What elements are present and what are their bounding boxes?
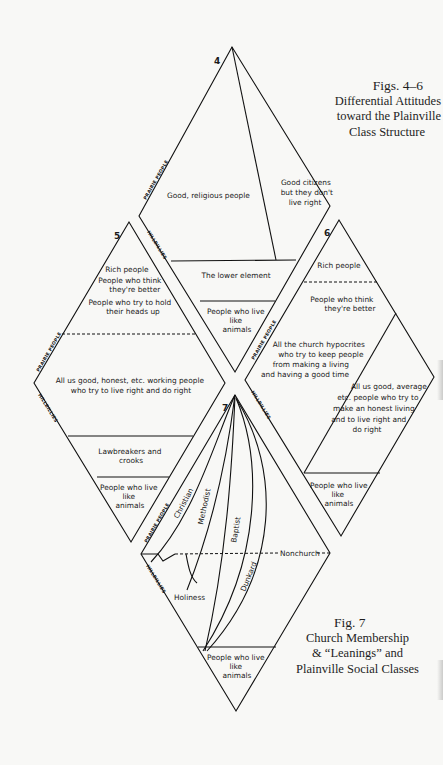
- diagram-7-prairie-label: PRAIRIE PEOPLE: [144, 502, 171, 543]
- diagram-4-line-lower-top: [171, 260, 296, 261]
- diagram-6: 6 PRAIRIE PEOPLE HILLBILLIES Rich people…: [245, 220, 434, 536]
- diagram-4-good-religious: Good, religious people: [167, 191, 250, 200]
- diagram-4-number: 4: [214, 56, 220, 66]
- diagram-5: 5 PRAIRIE PEOPLE HILLBILLIES Rich people…: [34, 222, 225, 542]
- book-page: 4 PRAIRIE PEOPLE HILLBILLIES Good, relig…: [0, 0, 443, 765]
- diagram-5-prairie-label: PRAIRIE PEOPLE: [36, 331, 63, 372]
- caption-fig-7-line-3: Plainville Social Classes: [296, 662, 443, 678]
- diagram-5-number: 5: [114, 231, 120, 241]
- caption-fig-7-line-2: & “Leanings” and: [296, 646, 443, 662]
- diagram-7-holiness: Holiness: [174, 593, 205, 602]
- diagram-7-holiness-notch: [141, 554, 175, 561]
- diagram-6-number: 6: [324, 228, 330, 238]
- diagram-6-church-hypocrites: All the church hypocrites who try to kee…: [261, 340, 367, 379]
- page-edge-shadow: [437, 660, 443, 700]
- diagram-7-animals: People who live like animals: [207, 653, 267, 680]
- caption-figs-4-6-line-3: Class Structure: [315, 125, 443, 141]
- diagram-4-prairie-label: PRAIRIE PEOPLE: [143, 159, 170, 200]
- caption-fig-7-number: Fig. 7: [296, 615, 443, 631]
- diagram-7-nonchurch-line: [175, 553, 278, 554]
- diagram-4-good-citizens: Good citizens but they don't live right: [281, 178, 336, 207]
- diagram-7-nonchurch: Nonchurch: [280, 549, 320, 558]
- diagram-7-hillbillies-label: HILLBILLIES: [145, 564, 167, 595]
- caption-figs-4-6: Figs. 4–6 Differential Attitudes toward …: [315, 78, 443, 140]
- diagram-7-curve-christian: [151, 395, 235, 562]
- caption-fig-7-line-1: Church Membership: [296, 631, 443, 647]
- caption-figs-4-6-line-2: toward the Plainville: [315, 109, 443, 125]
- diagram-5-working-people: All us good, honest, etc. working people…: [56, 376, 207, 395]
- diagram-4-animals: People who live like animals: [207, 307, 267, 334]
- caption-figs-4-6-line-1: Differential Attitudes: [315, 94, 443, 110]
- diagram-7-number: 7: [222, 403, 228, 413]
- diagram-5-top-classes: Rich people People who think they're bet…: [88, 265, 173, 316]
- diagram-4: 4 PRAIRIE PEOPLE HILLBILLIES Good, relig…: [139, 47, 335, 372]
- diagram-6-good-average: All us good, average etc. people who try…: [331, 382, 429, 434]
- caption-figs-4-6-number: Figs. 4–6: [315, 78, 443, 94]
- diagram-6-hillbillies-label: HILLBILLIES: [250, 390, 272, 421]
- diagram-5-hillbillies-label: HILLBILLIES: [37, 393, 59, 424]
- diagram-5-lawbreakers: Lawbreakers and crooks: [98, 447, 163, 465]
- diagram-6-think-better: People who think they're better: [310, 295, 376, 313]
- diagram-6-rich-people: Rich people: [317, 261, 361, 270]
- diagram-7-baptist: Baptist: [229, 516, 242, 543]
- diagram-4-divider: [232, 47, 276, 260]
- diagram-4-lower-element: The lower element: [200, 271, 270, 280]
- diagram-6-animals: People who live like animals: [310, 481, 370, 508]
- page-edge-shadow: [437, 360, 443, 400]
- caption-fig-7: Fig. 7 Church Membership & “Leanings” an…: [296, 615, 443, 677]
